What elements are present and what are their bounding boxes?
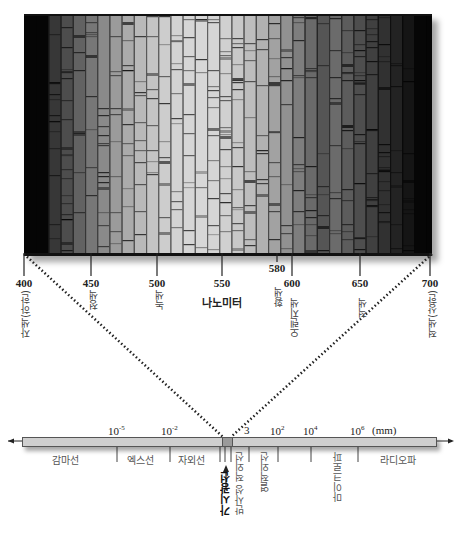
- scale-exponent-label: 104: [303, 424, 318, 437]
- visible-light-segment: [222, 437, 233, 447]
- em-band-label: 라디오파: [380, 452, 416, 467]
- wavelength-tick-label: 700: [422, 277, 439, 289]
- scale-exponent-label: 102: [270, 424, 285, 437]
- em-spectrum-figure: 400450500550580600650700 자색(하한)청색녹색황색오렌지…: [0, 0, 463, 536]
- em-band-label-vertical: 마이크로파: [330, 452, 345, 502]
- color-name-label: 적색: [355, 298, 370, 318]
- scale-exponent-label: 106: [350, 424, 365, 437]
- em-band-label: 자외선: [178, 452, 205, 467]
- em-band-label: 엑스선: [127, 452, 154, 467]
- scale-exponent-label: 10-2: [161, 424, 178, 437]
- wavelength-tick-label: 500: [149, 277, 166, 289]
- scale-unit: (mm): [372, 424, 396, 436]
- wavelength-tick-label: 650: [352, 277, 369, 289]
- color-name-label: 황색: [271, 287, 286, 307]
- color-name-label: 오렌지색: [287, 298, 302, 338]
- visible-light-label: 가시광선: [219, 472, 235, 516]
- wavelength-tick-label: 400: [16, 277, 33, 289]
- scale-exponent-label: 3: [244, 424, 250, 436]
- em-band-label: 감마선: [52, 452, 79, 467]
- color-name-label: 청색: [86, 290, 101, 310]
- wavelength-tick-label: 550: [214, 277, 231, 289]
- wavelength-tick-label: 450: [83, 277, 100, 289]
- color-name-label: 녹색: [152, 290, 167, 310]
- nanometer-axis-title: 나노미터: [202, 294, 242, 310]
- wavelength-tick-label: 580: [269, 262, 286, 274]
- color-name-label: 적색(상한): [425, 290, 440, 338]
- color-name-label: 자색(하한): [18, 290, 33, 338]
- em-band-label-vertical: 열적외선: [257, 452, 272, 492]
- scale-exponent-label: 10-5: [108, 424, 125, 437]
- wavelength-tick-label: 600: [284, 277, 301, 289]
